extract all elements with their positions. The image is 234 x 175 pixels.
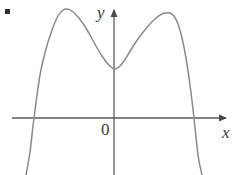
- graph-canvas: [0, 0, 234, 175]
- x-axis-label: x: [222, 124, 230, 141]
- y-axis-label: y: [97, 4, 105, 21]
- math-graph-figure: y x 0: [0, 0, 234, 175]
- origin-label: 0: [101, 121, 110, 138]
